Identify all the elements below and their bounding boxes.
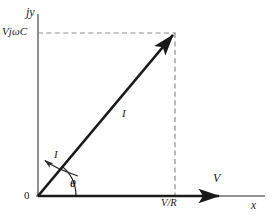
current-vector-label: I (122, 108, 126, 119)
diagram-canvas (0, 0, 272, 222)
current-leader-label: I (54, 149, 58, 160)
angle-theta-label: θ (70, 178, 76, 189)
y-axis-tick-label: VjωC (2, 26, 27, 37)
origin-label: 0 (24, 190, 30, 201)
x-axis-label: x (251, 200, 256, 212)
phasor-diagram-figure: jy VjωC 0 θ I I V V/R x (0, 0, 272, 222)
y-axis-label: jy (26, 6, 35, 18)
voltage-vector-label: V (213, 172, 220, 184)
x-axis-tick-label: V/R (161, 198, 177, 209)
current-vector-I (38, 35, 173, 196)
